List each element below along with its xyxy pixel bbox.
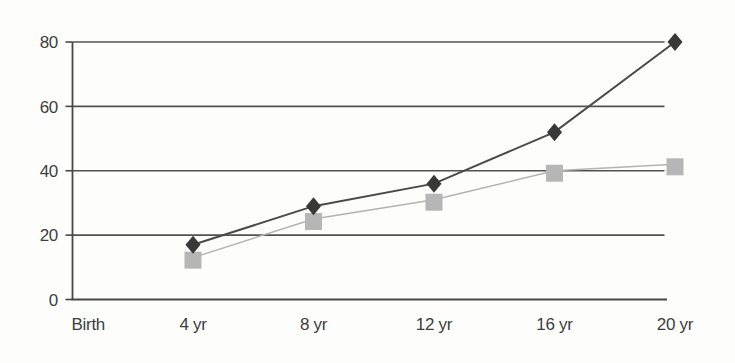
y-tick-label: 0 (49, 291, 58, 310)
x-tick-label: 20 yr (657, 315, 694, 334)
growth-line-chart: 020406080Birth4 yr8 yr12 yr16 yr20 yr (0, 0, 735, 363)
diamond-marker (547, 123, 562, 141)
square-marker (667, 158, 684, 175)
series-line-diamond (193, 42, 675, 245)
diamond-marker (427, 175, 442, 193)
chart-figure: 020406080Birth4 yr8 yr12 yr16 yr20 yr (0, 0, 735, 363)
y-tick-label: 40 (40, 162, 58, 181)
x-tick-label: 12 yr (416, 315, 453, 334)
x-tick-label: 8 yr (300, 315, 328, 334)
diamond-marker (668, 33, 683, 51)
x-tick-label: 4 yr (179, 315, 207, 334)
y-tick-label: 60 (40, 98, 58, 117)
square-marker (426, 194, 443, 211)
y-tick-label: 80 (40, 33, 58, 52)
square-marker (305, 213, 322, 230)
square-marker (185, 252, 202, 269)
y-tick-label: 20 (40, 226, 58, 245)
x-tick-label: 16 yr (536, 315, 573, 334)
diamond-marker (306, 197, 321, 215)
x-tick-label: Birth (72, 315, 105, 334)
diamond-marker (186, 236, 201, 254)
square-marker (546, 165, 563, 182)
